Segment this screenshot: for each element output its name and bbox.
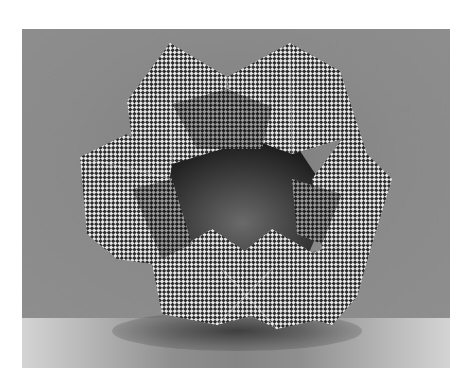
origami-sculpture xyxy=(22,29,450,368)
photograph xyxy=(22,29,450,368)
